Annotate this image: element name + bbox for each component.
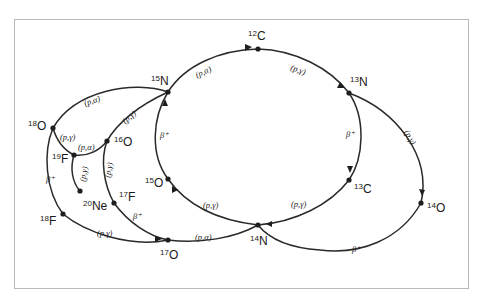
label-n14: 14N <box>250 234 268 248</box>
label-o17: 17O <box>160 248 178 262</box>
edge-o17-n14 <box>168 225 258 241</box>
reaction-f18-o18: β⁺ <box>45 174 56 184</box>
node-n15 <box>165 89 170 94</box>
edge-n15-c12 <box>168 49 258 92</box>
label-f19: 19F <box>52 152 68 166</box>
node-n13 <box>346 90 351 95</box>
edge-o18-n15 <box>53 87 168 128</box>
edge-n15-o16 <box>107 92 168 141</box>
label-n15: 15N <box>151 74 169 88</box>
label-o15: 15O <box>145 176 163 190</box>
node-f19 <box>71 152 76 157</box>
reaction-f17-o17: β⁺ <box>132 211 143 221</box>
node-n14 <box>255 222 260 227</box>
o14-branch <box>258 93 423 251</box>
node-f18 <box>60 211 65 216</box>
arrow-icon <box>347 166 353 173</box>
node-f17 <box>111 200 116 205</box>
reaction-c13-n14: (p,γ) <box>291 199 307 209</box>
label-c12: 12C <box>248 29 266 43</box>
node-o17 <box>165 237 170 242</box>
edge-o14-n14 <box>258 203 421 251</box>
reaction-o18-n15: (p,α) <box>83 93 102 108</box>
cn-cycle <box>155 49 361 225</box>
label-o18: 18O <box>28 119 46 133</box>
arrow-icon <box>419 189 425 196</box>
edge-o17-f18 <box>63 214 168 242</box>
label-ne20: 20Ne <box>83 199 108 213</box>
node-c12 <box>255 46 260 51</box>
reaction-n13-c13: β⁺ <box>345 129 356 139</box>
label-f17: 17F <box>119 190 135 204</box>
reaction-n13-o14: (p,γ) <box>402 128 418 146</box>
label-c13: 13C <box>354 182 372 196</box>
reaction-f19-o16: (p,α) <box>78 142 95 152</box>
cno-cycle-diagram: 12C 13N 13C 14N 15O 15N 16O 17F 17O 18F … <box>0 0 484 305</box>
label-o14: 14O <box>427 201 445 215</box>
label-f18: 18F <box>40 214 56 228</box>
reaction-labels: (p,α) (p,γ) β⁺ (p,γ) (p,γ) β⁺ (p,γ) (p,γ… <box>45 62 419 254</box>
label-n13: 13N <box>350 75 368 89</box>
label-o16: 16O <box>114 135 132 149</box>
node-c13 <box>346 177 351 182</box>
node-o14 <box>418 200 423 205</box>
reaction-n14-o15: (p,γ) <box>203 200 219 210</box>
node-o16 <box>104 138 109 143</box>
reaction-o16-f17: (p,γ) <box>102 161 115 178</box>
reaction-f19-ne20: (p,γ) <box>77 165 90 182</box>
reaction-o17-f18: (p,γ) <box>97 228 113 238</box>
arrow-icon <box>266 221 272 227</box>
node-o15 <box>165 176 170 181</box>
node-ne20 <box>77 188 82 193</box>
reaction-o18-f19: (p,γ) <box>60 132 76 142</box>
edge-f17-o17 <box>114 203 168 240</box>
reaction-o15-n15: β⁺ <box>159 130 170 140</box>
reaction-n15-c12: (p,α) <box>194 64 213 80</box>
reaction-o14-n14: β⁺ <box>351 244 362 254</box>
reaction-o17-n14: (p,α) <box>195 232 212 242</box>
reaction-c12-n13: (p,γ) <box>289 62 307 76</box>
node-o18 <box>50 125 55 130</box>
